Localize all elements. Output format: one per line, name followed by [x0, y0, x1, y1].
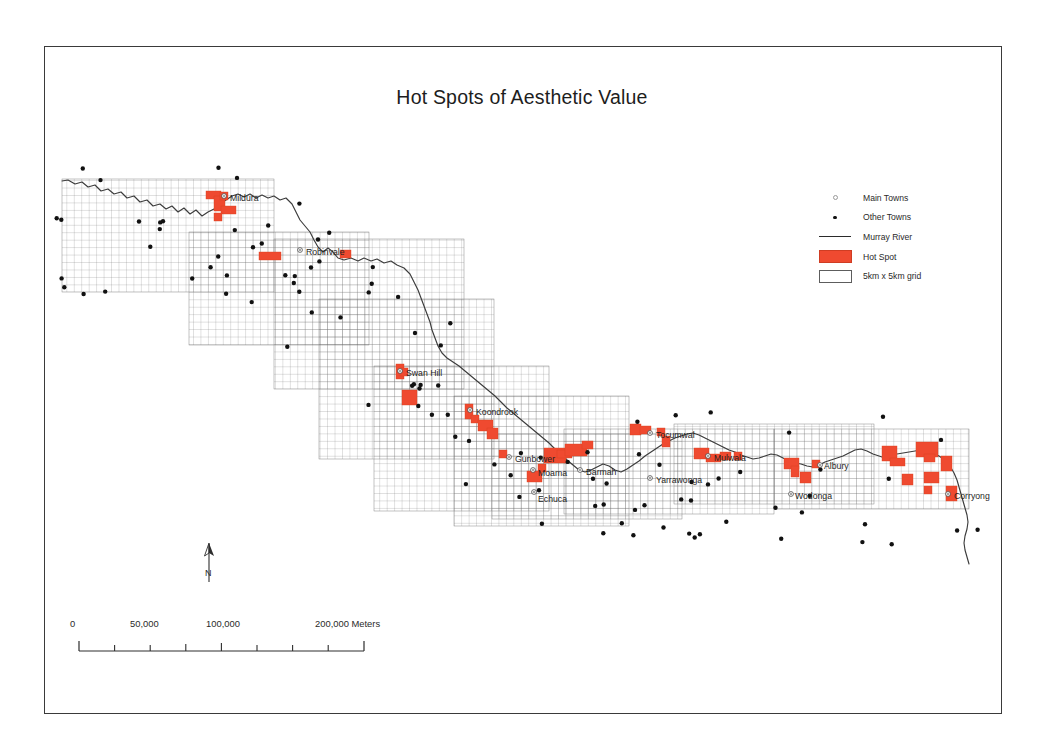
- other-town-dot: [887, 477, 891, 481]
- other-town-dot: [602, 502, 606, 506]
- other-town-dot: [633, 508, 637, 512]
- other-town-dot: [706, 482, 710, 486]
- other-town-dot: [370, 282, 374, 286]
- town-label-koondrook: Koondrook: [476, 407, 518, 417]
- other-town-dot: [233, 228, 237, 232]
- other-town-dot: [158, 227, 162, 231]
- other-town-dot: [689, 498, 693, 502]
- legend-label-main-towns: Main Towns: [856, 193, 908, 203]
- hotspot-swatch-icon: [814, 249, 856, 265]
- other-town-dot: [661, 525, 665, 529]
- other-town-dot: [338, 315, 342, 319]
- map-legend: Main Towns Other Towns Murray River Hot …: [814, 188, 984, 286]
- other-town-dot: [642, 503, 646, 507]
- legend-label-murray-river: Murray River: [856, 232, 912, 242]
- other-town-dot: [738, 470, 742, 474]
- scale-tick-label-200000: 200,000 Meters: [315, 618, 380, 629]
- scale-bar: 0 50,000 100,000 200,000 Meters: [70, 618, 400, 662]
- other-town-dot: [773, 506, 777, 510]
- other-town-dot: [657, 463, 661, 467]
- other-town-dot: [585, 450, 589, 454]
- other-town-dot: [81, 292, 85, 296]
- other-town-dot: [216, 166, 220, 170]
- other-town-dot: [467, 439, 471, 443]
- scale-tick-label-50000: 50,000: [130, 618, 159, 629]
- other-town-dot: [103, 289, 107, 293]
- other-town-dot: [224, 292, 228, 296]
- other-town-dot: [297, 201, 301, 205]
- other-town-dot: [464, 482, 468, 486]
- other-town-dot: [327, 231, 331, 235]
- legend-item-hot-spot: Hot Spot: [814, 247, 984, 267]
- north-arrow-icon: [200, 538, 224, 586]
- north-arrow: N: [200, 538, 224, 586]
- other-town-icon: [814, 209, 856, 225]
- other-town-dot: [787, 430, 791, 434]
- town-label-mildura: Mildura: [230, 193, 259, 203]
- other-town-dot: [448, 321, 452, 325]
- other-town-dot: [137, 219, 141, 223]
- other-town-dot: [591, 477, 595, 481]
- other-town-dot: [537, 488, 541, 492]
- other-town-dot: [724, 520, 728, 524]
- other-town-dot: [216, 254, 220, 258]
- legend-item-main-towns: Main Towns: [814, 188, 984, 208]
- other-town-dot: [509, 473, 513, 477]
- main-town-marker: [946, 492, 951, 497]
- other-town-dot: [283, 273, 287, 277]
- other-town-dot: [410, 384, 414, 388]
- other-town-dot: [225, 273, 229, 277]
- other-town-dot: [292, 281, 296, 285]
- other-town-dot: [955, 528, 959, 532]
- other-town-dot: [674, 413, 678, 417]
- other-town-dot: [260, 241, 264, 245]
- main-town-marker: [507, 455, 512, 460]
- other-town-dot: [698, 532, 702, 536]
- other-town-dot: [430, 413, 434, 417]
- main-town-marker: [706, 454, 711, 459]
- scale-bar-labels: 0 50,000 100,000 200,000 Meters: [70, 618, 400, 632]
- other-town-dot: [637, 452, 641, 456]
- other-town-dot: [779, 537, 783, 541]
- scale-tick-label-0: 0: [70, 618, 75, 629]
- other-town-dot: [367, 290, 371, 294]
- river-line-icon: [814, 229, 856, 245]
- other-town-dot: [416, 404, 420, 408]
- other-town-dot: [293, 274, 297, 278]
- main-town-marker: [818, 463, 823, 468]
- main-town-marker: [532, 490, 537, 495]
- other-town-dot: [81, 166, 85, 170]
- other-town-dot: [317, 259, 321, 263]
- other-town-dot: [190, 276, 194, 280]
- other-town-dot: [566, 460, 570, 464]
- other-town-dot: [250, 300, 254, 304]
- other-town-dot: [800, 510, 804, 514]
- other-town-dot: [413, 331, 417, 335]
- other-town-dot: [453, 435, 457, 439]
- other-town-dot: [601, 531, 605, 535]
- other-town-dot: [818, 467, 822, 471]
- other-town-dot: [517, 495, 521, 499]
- other-town-dot: [436, 383, 440, 387]
- other-town-dot: [631, 533, 635, 537]
- town-label-yarrawonga: Yarrawonga: [656, 475, 702, 485]
- town-label-albury: Albury: [824, 461, 849, 471]
- legend-label-hot-spot: Hot Spot: [856, 252, 896, 262]
- other-town-dot: [316, 237, 320, 241]
- grid-swatch-icon: [814, 268, 856, 284]
- other-town-dot: [55, 216, 59, 220]
- north-arrow-label: N: [205, 568, 212, 578]
- legend-item-grid: 5km x 5km grid: [814, 266, 984, 286]
- main-town-marker: [648, 431, 653, 436]
- other-town-dot: [309, 265, 313, 269]
- other-town-dot: [396, 295, 400, 299]
- map-canvas: [44, 46, 1002, 714]
- main-town-marker: [531, 468, 536, 473]
- other-town-dot: [235, 176, 239, 180]
- town-label-echuca: Echuca: [538, 494, 567, 504]
- other-town-dot: [148, 245, 152, 249]
- legend-label-grid: 5km x 5km grid: [856, 271, 921, 281]
- other-town-dot: [709, 410, 713, 414]
- town-label-gunbower: Gunbower: [515, 454, 555, 464]
- other-town-dot: [208, 265, 212, 269]
